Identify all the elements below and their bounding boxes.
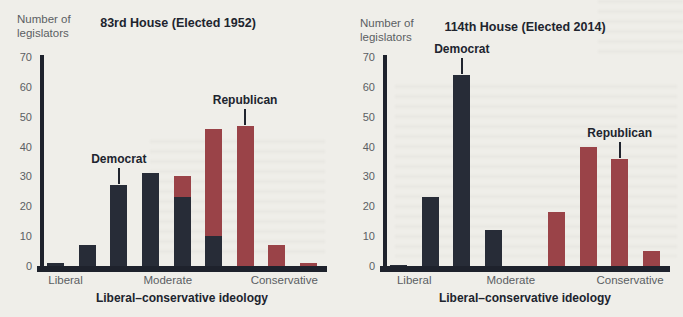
annotation-democrat: Democrat <box>59 152 179 166</box>
x-tick-label-conservative: Conservative <box>585 274 675 286</box>
bar-democrat-slot1 <box>422 197 439 266</box>
y-axis-line <box>40 55 44 272</box>
annotation-republican: Republican <box>185 93 305 107</box>
y-tick-label-10: 10 <box>6 230 32 243</box>
y-tick-label-20: 20 <box>349 200 375 213</box>
bar-republican-slot8 <box>300 263 317 266</box>
chart-title: 114th House (Elected 2014) <box>383 20 667 34</box>
bar-democrat-slot4 <box>174 197 191 266</box>
y-tick-label-30: 30 <box>6 170 32 183</box>
y-tick-label-20: 20 <box>6 200 32 213</box>
annotation-pointer-republican <box>244 109 246 125</box>
annotation-pointer-democrat <box>118 168 120 184</box>
y-tick-label-70: 70 <box>349 51 375 64</box>
bar-democrat-slot5 <box>205 236 222 266</box>
bar-republican-slot5 <box>548 212 565 266</box>
bar-democrat-slot3 <box>485 230 502 266</box>
y-tick-label-40: 40 <box>6 141 32 154</box>
x-axis-title: Liberal–conservative ideology <box>383 291 667 305</box>
x-tick-label-moderate: Moderate <box>123 274 213 286</box>
x-axis-line <box>37 266 327 272</box>
bar-republican-slot6 <box>580 147 597 266</box>
bar-republican-slot7 <box>268 245 285 266</box>
y-tick-label-50: 50 <box>349 111 375 124</box>
y-tick-label-40: 40 <box>349 141 375 154</box>
y-tick-label-0: 0 <box>349 260 375 273</box>
bar-democrat-slot0 <box>47 263 64 266</box>
annotation-pointer-democrat <box>461 58 463 74</box>
annotation-democrat: Democrat <box>402 42 522 56</box>
x-tick-label-liberal: Liberal <box>369 274 459 286</box>
y-axis-line <box>383 55 387 272</box>
bar-democrat-slot2 <box>110 185 127 266</box>
bar-democrat-slot0 <box>390 265 407 266</box>
annotation-pointer-republican <box>619 142 621 158</box>
y-tick-label-70: 70 <box>6 51 32 64</box>
chart-title: 83rd House (Elected 1952) <box>36 16 320 30</box>
bar-republican-slot8 <box>643 251 660 266</box>
book-page: Number of legislators 83rd House (Electe… <box>0 0 683 317</box>
x-axis-title: Liberal–conservative ideology <box>40 291 324 305</box>
bar-democrat-slot3 <box>142 173 159 266</box>
x-axis-line <box>380 266 670 272</box>
y-tick-label-60: 60 <box>6 81 32 94</box>
y-tick-label-10: 10 <box>349 230 375 243</box>
bar-republican-slot7 <box>611 159 628 266</box>
y-tick-label-30: 30 <box>349 170 375 183</box>
x-tick-label-moderate: Moderate <box>466 274 556 286</box>
bar-republican-slot6 <box>237 126 254 266</box>
bar-democrat-slot1 <box>79 245 96 266</box>
y-tick-label-0: 0 <box>6 260 32 273</box>
y-tick-label-50: 50 <box>6 111 32 124</box>
x-tick-label-conservative: Conservative <box>239 274 329 286</box>
bar-democrat-slot2 <box>453 75 470 266</box>
x-tick-label-liberal: Liberal <box>21 274 111 286</box>
y-tick-label-60: 60 <box>349 81 375 94</box>
annotation-republican: Republican <box>560 126 680 140</box>
